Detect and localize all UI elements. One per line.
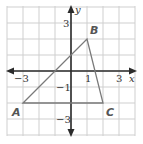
- y-axis-label: y: [74, 4, 81, 15]
- vertex-label-a: A: [11, 106, 21, 119]
- x-tick-label-1: 1: [85, 73, 91, 84]
- vertex-label-b: B: [90, 24, 98, 37]
- x-axis-label: x: [129, 73, 135, 84]
- y-tick-label-3: 3: [63, 18, 69, 29]
- coordinate-plane-figure: x y −3 1 3 3 −1 −3 A B C: [0, 0, 143, 144]
- vertex-label-c: C: [106, 106, 114, 119]
- x-tick-label-3: 3: [116, 73, 122, 84]
- x-tick-label-neg3: −3: [14, 73, 29, 84]
- y-tick-label-neg3: −3: [56, 114, 71, 125]
- y-tick-label-neg1: −1: [56, 82, 71, 93]
